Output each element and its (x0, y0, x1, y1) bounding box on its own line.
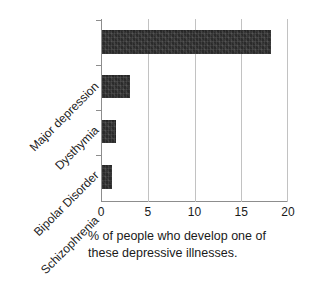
x-tick-label-10: 10 (183, 206, 207, 219)
y-tick-3 (96, 155, 101, 156)
x-tick-label-20: 20 (276, 206, 300, 219)
bar-chart: 0 5 10 15 20 Major depression Dysthymia … (0, 0, 312, 281)
x-tick-label-5: 5 (136, 206, 160, 219)
x-axis-caption-line-1: % of people who develop one of (88, 228, 306, 245)
x-axis-caption-line-2: these depressive illnesses. (88, 245, 306, 262)
plot-area (101, 19, 288, 202)
category-label-dysthymia: Dysthymia (53, 124, 102, 173)
y-tick-2 (96, 110, 101, 111)
x-axis-caption: % of people who develop one of these dep… (88, 228, 306, 262)
y-tick-0 (96, 20, 101, 21)
gridline-20 (287, 19, 288, 202)
x-tick-label-15: 15 (229, 206, 253, 219)
bar-dysthymia (102, 75, 130, 98)
bar-schizophrenia (102, 165, 112, 189)
bar-bipolar-disorder (102, 120, 116, 143)
bar-major-depression (102, 30, 271, 54)
y-tick-1 (96, 65, 101, 66)
